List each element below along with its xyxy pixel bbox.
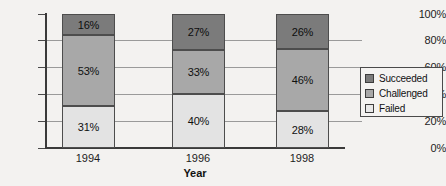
bar-segment-failed: 31% bbox=[62, 106, 115, 148]
bar-segment-label: 26% bbox=[292, 26, 313, 38]
bar-segment-label: 28% bbox=[292, 124, 313, 136]
bar-segment-label: 27% bbox=[188, 26, 209, 38]
x-tick-label-1998: 1998 bbox=[267, 152, 337, 164]
y-axis-line bbox=[45, 13, 47, 149]
legend-swatch-failed-icon bbox=[365, 104, 374, 113]
bar-segment-label: 46% bbox=[292, 74, 313, 86]
legend: Succeeded Challenged Failed bbox=[360, 67, 443, 117]
bar-segment-label: 40% bbox=[188, 115, 209, 127]
bar-segment-label: 31% bbox=[78, 121, 99, 133]
legend-swatch-challenged-icon bbox=[365, 89, 374, 98]
y-tick-label-80: 80% bbox=[406, 34, 446, 46]
legend-label: Succeeded bbox=[379, 73, 427, 84]
legend-item-succeeded[interactable]: Succeeded bbox=[365, 71, 438, 85]
x-axis-title: Year bbox=[150, 167, 240, 179]
bar-segment-label: 16% bbox=[78, 19, 99, 31]
legend-item-failed[interactable]: Failed bbox=[365, 101, 438, 115]
legend-label: Failed bbox=[379, 103, 405, 114]
bar-1998: 26% 46% 28% bbox=[276, 14, 329, 148]
bar-segment-succeeded: 16% bbox=[62, 14, 115, 35]
y-tick-label-100: 100% bbox=[406, 8, 446, 20]
bar-segment-failed: 28% bbox=[276, 111, 329, 148]
bar-segment-failed: 40% bbox=[172, 94, 225, 148]
bar-1996: 27% 33% 40% bbox=[172, 14, 225, 148]
bar-segment-label: 33% bbox=[188, 66, 209, 78]
bar-segment-challenged: 46% bbox=[276, 49, 329, 111]
x-tick-label-1996: 1996 bbox=[163, 152, 233, 164]
bar-segment-label: 53% bbox=[78, 65, 99, 77]
stacked-bar-chart: 100% 80% 60% 40% 20% 0% 16% 53% 31% 27% … bbox=[0, 0, 446, 186]
bar-segment-succeeded: 26% bbox=[276, 14, 329, 49]
legend-item-challenged[interactable]: Challenged bbox=[365, 86, 438, 100]
bar-segment-succeeded: 27% bbox=[172, 14, 225, 50]
x-tick-label-1994: 1994 bbox=[53, 152, 123, 164]
bar-segment-challenged: 33% bbox=[172, 50, 225, 94]
bar-segment-challenged: 53% bbox=[62, 35, 115, 106]
legend-label: Challenged bbox=[379, 88, 428, 99]
y-tick-label-0: 0% bbox=[406, 142, 446, 154]
legend-swatch-succeeded-icon bbox=[365, 74, 374, 83]
bar-1994: 16% 53% 31% bbox=[62, 14, 115, 148]
